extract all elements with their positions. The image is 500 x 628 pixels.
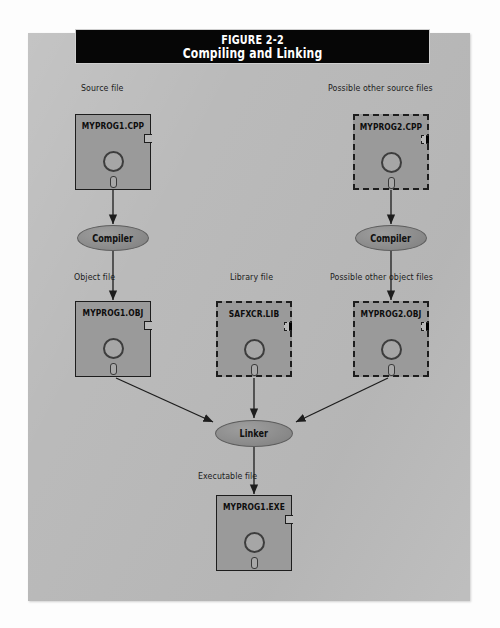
disk-label: MYPROG2.OBJ	[359, 308, 422, 319]
disk-shutter-icon	[110, 363, 117, 375]
disk-myprog1-obj[interactable]: MYPROG1.OBJ	[75, 301, 151, 377]
caption-object-file: Object file	[74, 271, 115, 282]
disk-label: MYPROG1.CPP	[80, 120, 145, 131]
arrow-obj2-to-linker	[296, 378, 388, 422]
write-protect-notch-icon	[421, 322, 429, 331]
write-protect-notch-icon	[285, 515, 293, 524]
caption-library-file: Library file	[230, 271, 273, 282]
process-label: Linker	[240, 428, 268, 439]
disk-shutter-icon	[110, 176, 117, 188]
disk-label: MYPROG2.CPP	[359, 121, 422, 132]
disk-myprog1-cpp[interactable]: MYPROG1.CPP	[75, 114, 151, 190]
process-compiler-left[interactable]: Compiler	[77, 225, 149, 251]
process-compiler-right[interactable]: Compiler	[355, 225, 427, 251]
caption-possible-other-object-files: Possible other object files	[330, 271, 433, 282]
figure-page: FIGURE 2-2 Compiling and Linking	[0, 0, 500, 628]
write-protect-notch-icon	[284, 322, 292, 331]
process-label: Compiler	[371, 233, 412, 244]
caption-source-file: Source file	[81, 82, 123, 93]
disk-myprog2-obj[interactable]: MYPROG2.OBJ	[353, 301, 429, 377]
disk-safxcr-lib[interactable]: SAFXCR.LIB	[216, 301, 292, 377]
disk-label: MYPROG1.EXE	[221, 501, 286, 512]
caption-executable-file: Executable file	[198, 470, 257, 481]
write-protect-notch-icon	[144, 321, 152, 330]
disk-shutter-icon	[388, 364, 395, 376]
write-protect-notch-icon	[421, 135, 429, 144]
disk-shutter-icon	[251, 364, 258, 376]
disk-shutter-icon	[388, 177, 395, 189]
disk-myprog2-cpp[interactable]: MYPROG2.CPP	[353, 114, 429, 190]
disk-myprog1-exe[interactable]: MYPROG1.EXE	[216, 495, 292, 571]
disk-hub-icon	[244, 339, 265, 360]
disk-label: MYPROG1.OBJ	[80, 307, 145, 318]
disk-hub-icon	[381, 152, 402, 173]
disk-hub-icon	[244, 532, 265, 553]
caption-possible-other-source-files: Possible other source files	[328, 82, 433, 93]
disk-hub-icon	[103, 151, 124, 172]
arrow-obj1-to-linker	[116, 378, 213, 422]
disk-shutter-icon	[251, 557, 258, 569]
disk-hub-icon	[381, 339, 402, 360]
disk-label: SAFXCR.LIB	[222, 308, 285, 319]
disk-hub-icon	[103, 338, 124, 359]
write-protect-notch-icon	[144, 134, 152, 143]
process-linker[interactable]: Linker	[215, 420, 293, 447]
process-label: Compiler	[93, 233, 134, 244]
